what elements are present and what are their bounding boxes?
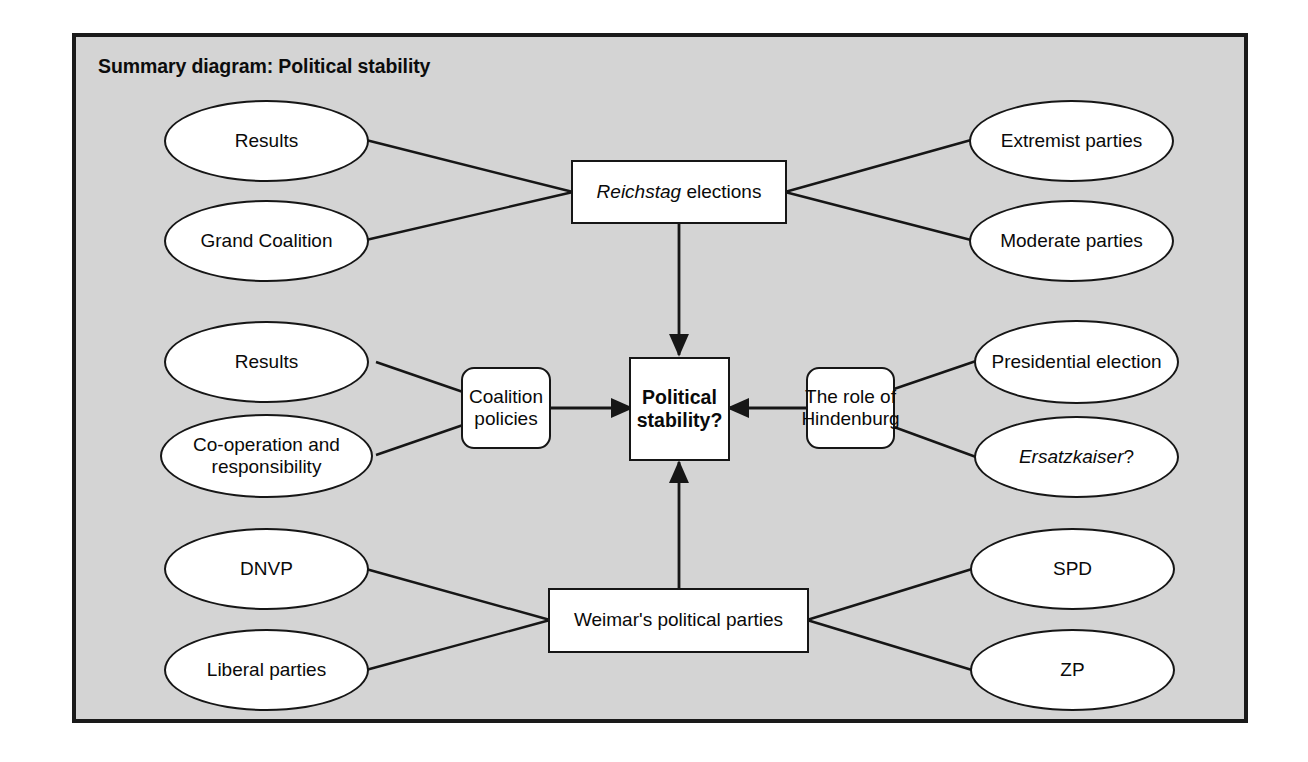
node-results-mid-label: Results bbox=[229, 351, 304, 373]
node-spd-label: SPD bbox=[1047, 558, 1098, 580]
node-reichstag-elections-label: Reichstag elections bbox=[591, 181, 768, 203]
node-extremist-parties[interactable]: Extremist parties bbox=[969, 100, 1174, 182]
edge-reichstag-extremist bbox=[785, 140, 971, 192]
diagram-frame: Summary diagram: Political stability bbox=[72, 33, 1248, 723]
edge-weimar-spd bbox=[807, 569, 972, 620]
edge-liberal-weimar bbox=[366, 620, 550, 670]
node-hindenburg[interactable]: The role of Hindenburg bbox=[806, 367, 895, 449]
node-reichstag-rest-part: elections bbox=[681, 181, 761, 202]
edge-grand-coalition-reichstag bbox=[366, 192, 573, 240]
node-coalition-policies-label: Coalition policies bbox=[463, 386, 549, 431]
edge-hindenburg-ersatzkaiser bbox=[894, 427, 976, 457]
node-coalition-policies[interactable]: Coalition policies bbox=[461, 367, 551, 449]
node-zp-label: ZP bbox=[1054, 659, 1090, 681]
edge-cooperation-coalition bbox=[376, 425, 463, 455]
node-grand-coalition-label: Grand Coalition bbox=[194, 230, 338, 252]
page-root: Summary diagram: Political stability bbox=[0, 0, 1308, 762]
node-cooperation-responsibility-label: Co-operation and responsibility bbox=[162, 434, 371, 479]
node-reichstag-italic-part: Reichstag bbox=[597, 181, 682, 202]
node-ersatzkaiser-italic-part: Ersatzkaiser bbox=[1019, 446, 1124, 467]
edge-results-top-reichstag bbox=[366, 140, 573, 192]
node-hindenburg-label: The role of Hindenburg bbox=[795, 386, 905, 431]
edge-results-mid-coalition bbox=[376, 362, 463, 392]
node-cooperation-responsibility[interactable]: Co-operation and responsibility bbox=[160, 414, 373, 498]
node-results-top[interactable]: Results bbox=[164, 100, 369, 182]
node-liberal-parties[interactable]: Liberal parties bbox=[164, 629, 369, 711]
node-weimar-parties[interactable]: Weimar's political parties bbox=[548, 588, 809, 653]
node-political-stability-label: Political stability? bbox=[631, 386, 729, 432]
node-reichstag-elections[interactable]: Reichstag elections bbox=[571, 160, 787, 224]
node-ersatzkaiser-label: Ersatzkaiser? bbox=[1013, 446, 1140, 468]
node-presidential-election[interactable]: Presidential election bbox=[974, 320, 1179, 404]
node-ersatzkaiser-rest-part: ? bbox=[1123, 446, 1134, 467]
node-dnvp-label: DNVP bbox=[234, 558, 299, 580]
node-presidential-election-label: Presidential election bbox=[985, 351, 1167, 373]
node-results-top-label: Results bbox=[229, 130, 304, 152]
edge-hindenburg-presidential bbox=[894, 361, 976, 389]
node-dnvp[interactable]: DNVP bbox=[164, 528, 369, 610]
node-weimar-parties-label: Weimar's political parties bbox=[568, 609, 789, 631]
node-political-stability[interactable]: Political stability? bbox=[629, 357, 730, 461]
node-moderate-parties-label: Moderate parties bbox=[994, 230, 1149, 252]
node-grand-coalition[interactable]: Grand Coalition bbox=[164, 200, 369, 282]
edge-dnvp-weimar bbox=[366, 569, 550, 620]
edge-weimar-zp bbox=[807, 620, 972, 670]
node-moderate-parties[interactable]: Moderate parties bbox=[969, 200, 1174, 282]
node-ersatzkaiser[interactable]: Ersatzkaiser? bbox=[974, 416, 1179, 498]
node-zp[interactable]: ZP bbox=[970, 629, 1175, 711]
node-extremist-parties-label: Extremist parties bbox=[995, 130, 1148, 152]
node-results-mid[interactable]: Results bbox=[164, 321, 369, 403]
edge-reichstag-moderate bbox=[785, 192, 971, 240]
node-spd[interactable]: SPD bbox=[970, 528, 1175, 610]
node-liberal-parties-label: Liberal parties bbox=[201, 659, 332, 681]
